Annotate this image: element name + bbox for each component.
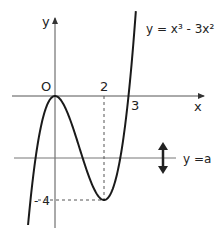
line-a-label: y =a — [183, 152, 211, 166]
function-graph: y x O 2 3 - 4 y = x³ - 3x² y =a — [0, 0, 217, 240]
origin-label: O — [41, 79, 51, 94]
x-axis-label: x — [194, 99, 202, 114]
cubic-curve — [28, 11, 136, 225]
tick-label-2: 2 — [100, 79, 108, 94]
tick-label-neg4: - 4 — [34, 194, 50, 208]
y-axis-label: y — [42, 14, 50, 29]
equation-label: y = x³ - 3x² — [146, 22, 214, 36]
tick-label-3: 3 — [131, 98, 139, 113]
